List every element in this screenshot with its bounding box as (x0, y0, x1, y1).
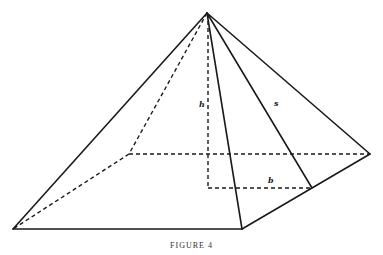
edge-front-right (242, 154, 370, 229)
edge-apex-front-right (207, 13, 242, 229)
figure-caption: FIGURE 4 (0, 241, 383, 250)
half-base-label: b (268, 175, 274, 185)
slant-height-label: s (274, 98, 279, 108)
pyramid-diagram: h s b (0, 0, 383, 255)
edge-apex-front-left (13, 13, 207, 229)
edge-apex-right (207, 13, 370, 154)
height-label: h (199, 99, 205, 109)
hidden-edge-apex-back-left (129, 13, 207, 154)
slant-height-line (207, 13, 312, 188)
